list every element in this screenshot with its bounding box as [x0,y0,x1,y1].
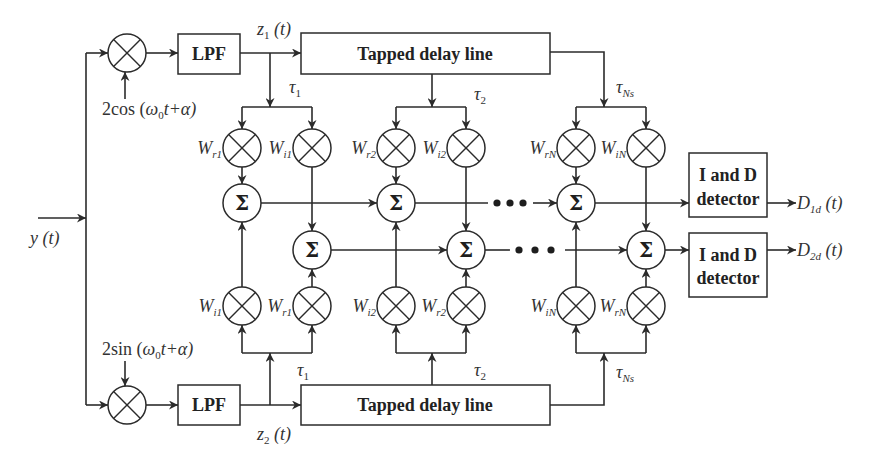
weight-sub: r1 [282,306,292,318]
upper-output-label: z1 (t) [256,19,291,41]
lower-lpf-label: LPF [192,395,226,415]
weight-sub: r2 [436,306,446,318]
upper-lpf-label: LPF [192,44,226,64]
z2-arg: (t) [270,424,292,445]
tau-sub: 2 [480,94,486,106]
weight-sub: iN [616,148,627,160]
weight-label: WrN [599,296,626,318]
tau-sub: Ns [621,372,634,384]
tau-sub: 1 [303,370,309,382]
sigma-symbol: Σ [389,191,403,215]
weight-label: WiN [601,138,627,160]
tau-sub: 1 [295,87,301,99]
weight-sub: rN [544,148,556,160]
weight-label: WrN [529,138,556,160]
multiplier-icon [293,129,331,167]
weight-label: Wi2 [422,138,446,160]
upper-tapN-line [550,52,604,107]
detector1-output-label: D1d (t) [796,193,843,215]
weight-sub: r2 [366,148,376,160]
multiplier-icon [627,129,665,167]
carrier-prefix: 2cos ( [102,99,146,120]
carrier-prefix: 2sin ( [102,339,143,360]
carrier-omega: ω [146,99,159,119]
sigma-symbol: Σ [459,238,473,262]
lower-tap2-label: τ2 [474,360,486,382]
z1-main: z [256,19,264,39]
weight-label: Wi1 [268,138,292,160]
weight-label: Wr1 [267,296,292,318]
upper-carrier-label: 2cos (ω0t+α) [102,99,196,121]
sigma-symbol: Σ [235,191,249,215]
lower-tapped-delay-line-label: Tapped delay line [357,395,492,415]
summer-icon: Σ [377,184,415,222]
d1-sub: 1d [810,203,822,215]
summer-icon: Σ [447,231,485,269]
carrier-suffix: t+α) [161,339,194,360]
detector1-line2: detector [697,189,760,209]
weight-sub: i1 [283,148,292,160]
weight-sub: r1 [212,148,222,160]
lower-tap1-label: τ1 [297,360,309,382]
multiplier-icon [223,287,261,325]
input-label: y (t) [28,228,59,249]
d1-main: D [796,193,810,213]
z1-arg: (t) [270,19,292,40]
upper-mixer-icon [108,34,146,72]
detector2-line2: detector [697,268,760,288]
weight-label: WiN [531,296,557,318]
sigma-symbol: Σ [305,238,319,262]
weight-sub: i2 [367,306,376,318]
detector1-line1: I and D [699,165,757,185]
weight-label: Wr2 [351,138,376,160]
weight-sub: i2 [437,148,446,160]
upper-tap1-label: τ1 [289,77,301,99]
detector2-output-label: D2d (t) [796,240,843,262]
weight-sub: rN [614,306,626,318]
receiver-block-diagram: y (t) 2cos (ω0t+α) LPF z1 (t) Tapped del… [0,0,872,466]
d2-sub: 2d [810,250,822,262]
tau-sub: 2 [480,370,486,382]
lower-mixer-icon [108,386,146,424]
summer-icon: Σ [627,231,665,269]
d2-main: D [796,240,810,260]
multiplier-icon [557,129,595,167]
multiplier-icon [447,129,485,167]
detector2-line1: I and D [699,245,757,265]
sigma-symbol: Σ [569,191,583,215]
weight-sub: i1 [213,306,222,318]
multiplier-icon [557,287,595,325]
lower-carrier-label: 2sin (ω0t+α) [102,339,193,361]
weight-label: Wr2 [421,296,446,318]
summer-icon: Σ [557,184,595,222]
multiplier-icon [293,287,331,325]
upper-tapN-label: τNs [616,77,634,99]
weight-label: Wi2 [352,296,376,318]
summer-icon: Σ [293,231,331,269]
row1-ellipsis-dots [493,199,526,206]
summer-icon: Σ [223,184,261,222]
lower-tapN-label: τNs [616,362,634,384]
weight-label: Wi1 [198,296,222,318]
carrier-omega: ω [143,339,156,359]
sigma-symbol: Σ [639,238,653,262]
weight-sub: iN [546,306,557,318]
lower-output-label: z2 (t) [256,424,291,446]
lower-tapN-line [550,353,604,405]
multiplier-icon [627,287,665,325]
upper-tap2-label: τ2 [474,84,486,106]
multiplier-icon [223,129,261,167]
multiplier-icon [377,287,415,325]
multiplier-icon [377,129,415,167]
weight-label: Wr1 [197,138,222,160]
tau-sub: Ns [621,87,634,99]
d1-arg: (t) [821,193,843,214]
row2-ellipsis-dots [515,246,554,253]
multiplier-icon [447,287,485,325]
z2-main: z [256,424,264,444]
carrier-suffix: t+α) [164,99,197,120]
upper-tapped-delay-line-label: Tapped delay line [357,44,492,64]
d2-arg: (t) [821,240,843,261]
